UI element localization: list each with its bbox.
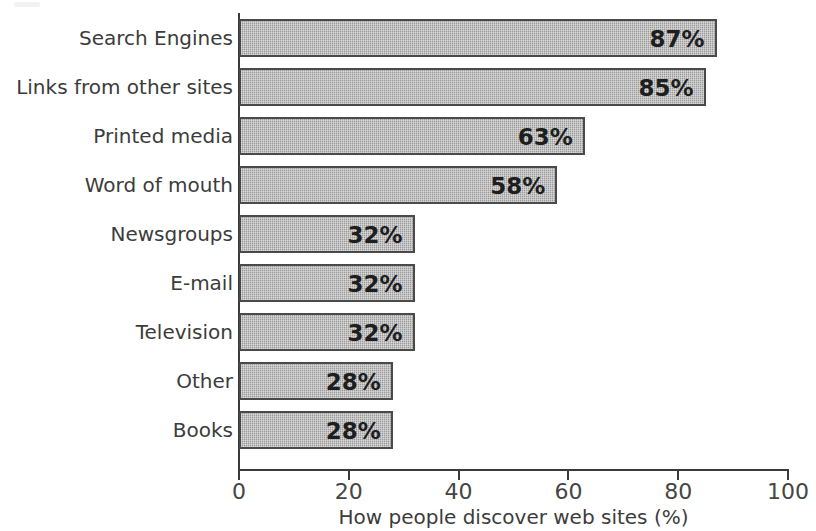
bar-row: Links from other sites85% [0,68,816,106]
x-tick-label: 80 [638,479,718,504]
bar: 32% [239,264,415,302]
x-tick-label: 0 [199,479,279,504]
category-label: Newsgroups [0,215,233,253]
x-axis-title: How people discover web sites (%) [239,505,788,529]
x-tick-label: 20 [309,479,389,504]
bar: 32% [239,313,415,351]
bar-row: Newsgroups32% [0,215,816,253]
category-label: Links from other sites [0,68,233,106]
bar-row: Search Engines87% [0,19,816,57]
bar-chart: Search Engines87%Links from other sites8… [0,0,816,531]
bar: 58% [239,166,557,204]
bar: 28% [239,362,393,400]
bar-value-label: 87% [650,21,705,59]
bar: 63% [239,117,585,155]
x-tick-label: 100 [748,479,816,504]
bar-row: Other28% [0,362,816,400]
bar: 32% [239,215,415,253]
category-label: Other [0,362,233,400]
x-axis-line [238,469,789,471]
scan-artifact [14,2,40,7]
bar-row: Word of mouth58% [0,166,816,204]
category-label: E-mail [0,264,233,302]
bar: 28% [239,411,393,449]
category-label: Search Engines [0,19,233,57]
bar-row: Printed media63% [0,117,816,155]
bar-row: E-mail32% [0,264,816,302]
bar-value-label: 32% [348,217,403,255]
bar: 87% [239,19,717,57]
bar-value-label: 28% [326,413,381,451]
category-label: Books [0,411,233,449]
bar-value-label: 32% [348,266,403,304]
bar-row: Books28% [0,411,816,449]
category-label: Word of mouth [0,166,233,204]
x-tick-label: 60 [528,479,608,504]
x-tick-label: 40 [419,479,499,504]
bar-value-label: 58% [490,168,545,206]
bar-row: Television32% [0,313,816,351]
bar-value-label: 32% [348,315,403,353]
category-label: Printed media [0,117,233,155]
bar-value-label: 85% [639,70,694,108]
category-label: Television [0,313,233,351]
bar: 85% [239,68,706,106]
bar-value-label: 28% [326,364,381,402]
bar-value-label: 63% [518,119,573,157]
